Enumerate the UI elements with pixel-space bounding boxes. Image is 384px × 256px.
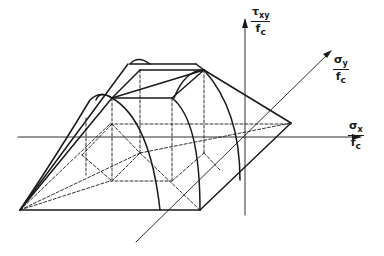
tau-den-sub: c: [260, 26, 265, 37]
tau-arrowhead: [242, 18, 248, 28]
tau-subscript: xy: [259, 11, 269, 20]
failure-surface-diagram: [0, 0, 384, 256]
hidden-lines: [20, 70, 291, 210]
tau-xy-label: τxy fc: [251, 6, 270, 37]
sigma-x-subscript: x: [358, 125, 363, 134]
sigma-y-arrowhead: [323, 50, 332, 58]
sigma-y-axis: [136, 52, 330, 242]
sigma-y-subscript: y: [343, 59, 348, 68]
surface-edges: [20, 60, 291, 211]
sigma-x-den-sub: c: [356, 140, 361, 151]
sigma-y-label: σy fc: [333, 54, 349, 85]
axes: [18, 20, 360, 242]
sigma-x-symbol: σ: [349, 119, 358, 132]
sigma-y-den-sub: c: [341, 74, 346, 85]
sigma-x-label: σx fc: [348, 120, 364, 151]
tau-symbol: τ: [252, 5, 259, 18]
sigma-y-symbol: σ: [334, 53, 343, 66]
